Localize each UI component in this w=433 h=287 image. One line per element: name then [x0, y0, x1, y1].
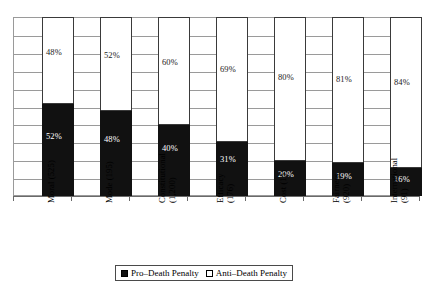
bars-layer: 48% 52% 52% 48% 60% 40% 69%	[13, 17, 420, 196]
bar-label-anti: 84%	[394, 78, 410, 87]
bar-segment-anti: 80%	[274, 17, 306, 160]
x-axis-label-line1: Constitutional	[157, 153, 167, 203]
x-axis-label-line2: (1,200)	[167, 177, 177, 203]
bar-segment-anti: 84%	[390, 17, 422, 167]
axis-tick	[303, 196, 304, 201]
chart-legend: Pro–Death Penalty Anti–Death Penalty	[115, 265, 293, 281]
bar-column: 81% 19%	[332, 17, 364, 196]
axis-tick	[129, 196, 130, 201]
filled-square-icon	[121, 270, 128, 277]
x-axis-label-line1: Cost (15)	[278, 170, 288, 203]
stacked-bar-chart: 48% 52% 52% 48% 60% 40% 69%	[0, 0, 433, 287]
open-square-icon	[206, 270, 213, 277]
bar-label-pro: 48%	[104, 135, 120, 144]
legend-label-anti: Anti–Death Penalty	[216, 268, 287, 278]
bar-label-anti: 52%	[104, 51, 120, 60]
bar-label-pro: 40%	[162, 144, 178, 153]
bar-label-anti: 80%	[278, 73, 294, 82]
x-axis-label-line1: Mode (195)	[104, 161, 114, 203]
axis-tick	[13, 196, 14, 201]
axis-tick	[419, 196, 420, 201]
bar-label-anti: 69%	[220, 65, 236, 74]
bar-label-pro: 31%	[220, 155, 236, 164]
bar-label-anti: 48%	[46, 48, 62, 57]
x-axis-label-line1: Moral (525)	[46, 160, 56, 203]
axis-tick	[71, 196, 72, 201]
axis-tick	[361, 196, 362, 201]
x-axis-label-line1: International	[389, 158, 399, 203]
bar-segment-anti: 69%	[216, 17, 248, 141]
x-axis-label-line2: (920)	[341, 184, 351, 203]
legend-entry-pro: Pro–Death Penalty	[121, 268, 199, 278]
x-axis-label-line2: (176)	[225, 184, 235, 203]
legend-entry-anti: Anti–Death Penalty	[206, 268, 287, 278]
x-axis-label-line1: Efficacy	[215, 173, 225, 203]
bar-segment-anti: 52%	[100, 17, 132, 110]
legend-label-pro: Pro–Death Penalty	[131, 268, 199, 278]
bar-label-anti: 81%	[336, 75, 352, 84]
bar-label-anti: 60%	[162, 58, 178, 67]
x-axis-label-line1: Fairness	[331, 174, 341, 203]
axis-tick	[187, 196, 188, 201]
bar-segment-anti: 81%	[332, 17, 364, 162]
bar-column: 69% 31%	[216, 17, 248, 196]
bar-label-pro: 52%	[46, 132, 62, 141]
axis-tick	[245, 196, 246, 201]
bar-segment-anti: 48%	[42, 17, 74, 103]
bar-segment-anti: 60%	[158, 17, 190, 124]
x-axis-label-line2: (91)	[399, 188, 409, 203]
